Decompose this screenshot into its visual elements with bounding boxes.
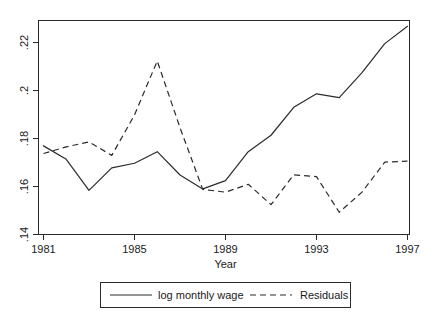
legend-label-log-monthly-wage: log monthly wage [158, 289, 244, 301]
legend-label-residuals: Residuals [300, 289, 349, 301]
x-tick-label-0: 1981 [31, 243, 55, 255]
x-tick-label-4: 1997 [395, 243, 419, 255]
y-tick-label-1: .16 [18, 179, 30, 194]
x-tick-label-3: 1993 [304, 243, 328, 255]
series-log-monthly-wage [44, 26, 408, 190]
x-tick-label-1: 1985 [122, 243, 146, 255]
y-tick-label-2: .18 [18, 131, 30, 146]
chart-legend: log monthly wage Residuals [101, 283, 351, 308]
y-tick-label-3: .2 [18, 86, 30, 95]
x-axis-ticks [44, 235, 408, 241]
plot-frame [39, 21, 410, 235]
y-tick-label-4: .22 [18, 35, 30, 50]
y-axis-ticks [33, 43, 39, 235]
x-tick-label-2: 1989 [213, 243, 237, 255]
line-chart: .14 .16 .18 .2 .22 1981 1985 1989 1993 1… [0, 0, 433, 319]
x-axis-title: Year [214, 258, 237, 270]
chart-figure: .14 .16 .18 .2 .22 1981 1985 1989 1993 1… [0, 0, 433, 319]
y-tick-label-0: .14 [18, 227, 30, 242]
series-residuals [44, 61, 408, 212]
